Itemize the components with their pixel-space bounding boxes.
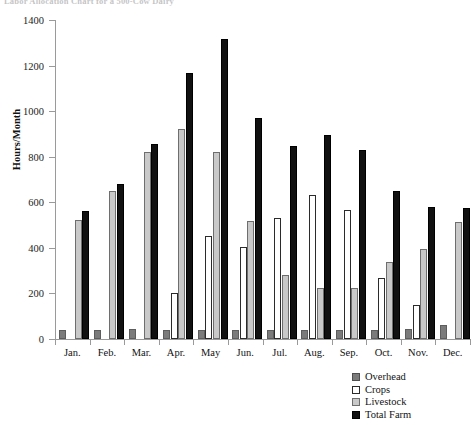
legend-label: Livestock — [365, 396, 406, 409]
bar-livestock — [317, 288, 324, 339]
legend-label: Crops — [365, 384, 390, 397]
legend-label: Overhead — [365, 371, 406, 384]
bar-livestock — [282, 275, 289, 339]
bar-overhead — [371, 330, 378, 339]
bar-group — [232, 20, 262, 339]
bar-overhead — [232, 330, 239, 339]
y-axis-title: Hours/Month — [11, 80, 22, 200]
chart-title: Labor Allocation Chart for a 500-Cow Dai… — [4, 0, 174, 6]
y-tick-label: 1000 — [0, 106, 44, 117]
bar-total — [186, 73, 193, 339]
bar-group — [163, 20, 193, 339]
bar-livestock — [386, 262, 393, 339]
bar-crops — [413, 305, 420, 339]
x-tick-mark — [124, 340, 125, 345]
bar-group — [59, 20, 89, 339]
bar-overhead — [59, 330, 66, 339]
bar-overhead — [163, 330, 170, 339]
x-tick-mark — [263, 340, 264, 345]
y-tick-label: 600 — [0, 197, 44, 208]
x-tick-mark — [435, 340, 436, 345]
y-tick-label: 800 — [0, 151, 44, 162]
bar-group — [371, 20, 401, 339]
bar-group — [405, 20, 435, 339]
bar-overhead — [129, 329, 136, 339]
x-tick-mark — [193, 340, 194, 345]
chart-root: Labor Allocation Chart for a 500-Cow Dai… — [0, 0, 476, 425]
bar-overhead — [405, 329, 412, 339]
bar-group — [336, 20, 366, 339]
bar-crops — [344, 210, 351, 339]
x-tick-mark — [228, 340, 229, 345]
bar-livestock — [178, 129, 185, 339]
y-tick-label: 200 — [0, 288, 44, 299]
bar-overhead — [336, 330, 343, 339]
bar-crops — [274, 218, 281, 339]
bar-livestock — [455, 222, 462, 339]
bar-crops — [378, 278, 385, 339]
bar-livestock — [213, 152, 220, 339]
chart-legend: OverheadCropsLivestockTotal Farm — [352, 371, 411, 421]
bar-group — [94, 20, 124, 339]
bar-overhead — [267, 330, 274, 339]
y-tick-label: 0 — [0, 334, 44, 345]
legend-item: Overhead — [352, 371, 411, 384]
bar-overhead — [94, 330, 101, 339]
bar-livestock — [144, 152, 151, 339]
bar-total — [359, 150, 366, 339]
bar-group — [129, 20, 159, 339]
legend-item: Total Farm — [352, 409, 411, 422]
legend-item: Livestock — [352, 396, 411, 409]
bar-crops — [240, 247, 247, 339]
legend-swatch-icon — [352, 373, 360, 381]
bar-group — [198, 20, 228, 339]
x-tick-mark — [470, 340, 471, 345]
bar-crops — [309, 195, 316, 339]
bar-livestock — [351, 288, 358, 339]
x-tick-mark — [90, 340, 91, 345]
legend-swatch-icon — [352, 411, 360, 419]
bar-livestock — [247, 221, 254, 339]
bar-overhead — [301, 330, 308, 339]
bar-livestock — [109, 191, 116, 339]
bar-group — [440, 20, 470, 339]
bar-total — [324, 135, 331, 339]
legend-label: Total Farm — [365, 409, 411, 422]
bar-overhead — [440, 325, 447, 339]
x-tick-mark — [55, 340, 56, 345]
bar-group — [301, 20, 331, 339]
x-tick-mark — [332, 340, 333, 345]
bar-livestock — [75, 220, 82, 339]
bar-livestock — [420, 249, 427, 339]
bar-total — [255, 118, 262, 339]
legend-swatch-icon — [352, 386, 360, 394]
bar-total — [428, 207, 435, 339]
bar-total — [221, 39, 228, 339]
x-tick-mark — [297, 340, 298, 345]
bar-total — [290, 146, 297, 339]
legend-item: Crops — [352, 384, 411, 397]
bar-total — [117, 184, 124, 339]
bar-total — [463, 208, 470, 339]
bar-total — [393, 191, 400, 339]
bar-crops — [171, 293, 178, 339]
x-tick-mark — [366, 340, 367, 345]
bar-total — [151, 144, 158, 339]
plot-area — [55, 20, 470, 339]
bar-group — [267, 20, 297, 339]
bar-total — [82, 211, 89, 339]
legend-swatch-icon — [352, 398, 360, 406]
bar-crops — [205, 236, 212, 339]
x-tick-mark — [401, 340, 402, 345]
x-tick-label: Dec. — [430, 347, 476, 358]
bar-overhead — [198, 330, 205, 339]
y-tick-label: 1400 — [0, 15, 44, 26]
y-tick-label: 1200 — [0, 60, 44, 71]
y-tick-label: 400 — [0, 242, 44, 253]
x-tick-mark — [159, 340, 160, 345]
